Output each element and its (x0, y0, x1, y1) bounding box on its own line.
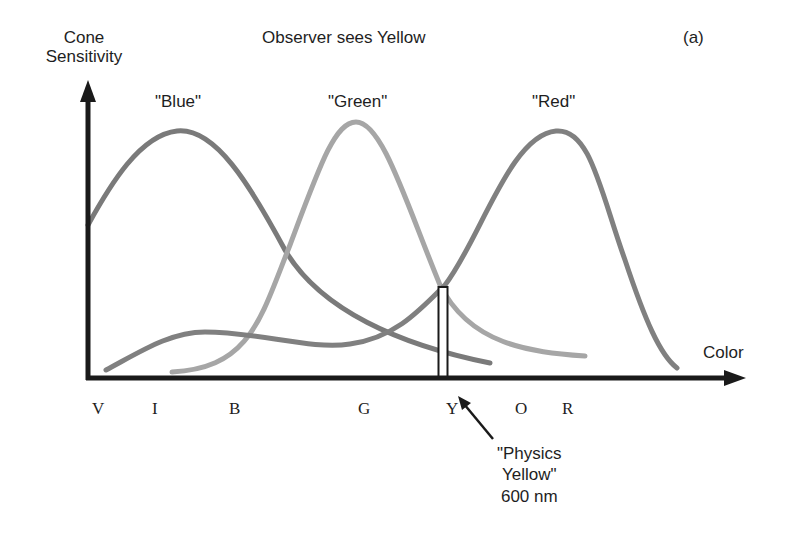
annotation-arrowhead (458, 396, 471, 410)
annotation-line2: Yellow" (497, 464, 562, 485)
tick-yellow: Y (446, 399, 458, 419)
tick-orange: O (515, 399, 527, 419)
figure-title: Observer sees Yellow (262, 29, 425, 48)
blue-curve-label: "Blue" (155, 93, 201, 112)
red-curve-label: "Red" (532, 93, 575, 112)
tick-green: G (358, 399, 370, 419)
x-axis-arrowhead (724, 370, 746, 386)
annotation-arrow-shaft (464, 404, 493, 439)
physics-yellow-annotation: "Physics Yellow" 600 nm (497, 443, 562, 507)
y-axis-label-line2: Sensitivity (46, 48, 123, 67)
y-axis-arrowhead (80, 80, 96, 102)
cone-sensitivity-figure: Cone Sensitivity Observer sees Yellow (a… (0, 0, 792, 541)
tick-red: R (562, 399, 573, 419)
annotation-line3: 600 nm (497, 486, 562, 507)
plot-canvas (0, 0, 792, 541)
x-axis-label: Color (703, 344, 744, 363)
tick-blue: B (229, 399, 240, 419)
physics-yellow-bar (439, 287, 448, 378)
y-axis-label: Cone Sensitivity (46, 29, 123, 66)
green-curve-label: "Green" (328, 93, 387, 112)
y-axis-label-line1: Cone (46, 29, 123, 48)
tick-indigo: I (152, 399, 158, 419)
tick-violet: V (92, 399, 104, 419)
panel-label: (a) (683, 29, 704, 48)
annotation-line1: "Physics (497, 443, 562, 464)
